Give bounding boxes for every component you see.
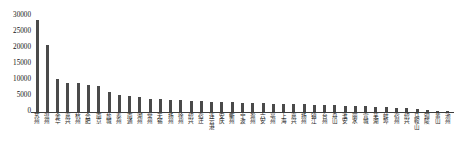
bar-column	[128, 96, 131, 112]
bar-column	[66, 83, 69, 112]
bar	[36, 20, 39, 112]
x-axis-tick-label: 镇江	[310, 114, 318, 125]
bar	[56, 79, 59, 112]
bar-chart: 050001000015000200002500030000 苏州温州金华嘉兴杭…	[0, 0, 457, 156]
x-axis-tick-label: 无锡	[156, 114, 164, 125]
bar-column	[303, 104, 306, 112]
bar-column	[87, 85, 90, 112]
bar-column	[159, 99, 162, 112]
y-axis-tick-label: 5000	[0, 92, 31, 99]
x-axis-tick-label: 扬州	[300, 114, 308, 125]
bar	[282, 104, 285, 112]
bar	[87, 85, 90, 112]
bar	[108, 92, 111, 112]
bar-column	[149, 99, 152, 112]
bar-column	[77, 83, 80, 112]
bar	[149, 99, 152, 112]
bar	[333, 105, 336, 112]
bar	[77, 83, 80, 112]
bar	[292, 104, 295, 112]
bar-column	[210, 102, 213, 112]
x-axis-tick-label: 芜湖	[372, 114, 380, 125]
bar-column	[231, 102, 234, 112]
y-axis-tick-label: 10000	[0, 76, 31, 83]
y-axis-tick-label: 30000	[0, 12, 31, 19]
bar-column	[262, 103, 265, 112]
y-axis-tick-label: 20000	[0, 44, 31, 51]
bar	[313, 105, 316, 112]
bar-column	[241, 103, 244, 112]
bar-column	[108, 92, 111, 112]
bar	[118, 95, 121, 112]
x-axis-tick-label: 苏州	[33, 114, 41, 125]
x-axis-tick-label: 绍兴	[403, 114, 411, 125]
bar-column	[179, 100, 182, 112]
x-axis-tick-label: 铜陵	[423, 114, 431, 125]
y-axis-tick-label: 0	[0, 108, 31, 115]
x-axis-tick-label: 连云港	[208, 114, 216, 130]
bar	[262, 103, 265, 112]
bar	[272, 104, 275, 112]
y-axis: 050001000015000200002500030000	[0, 0, 31, 156]
x-axis-tick-label: 盐城	[105, 114, 113, 125]
bar	[323, 105, 326, 112]
x-axis-tick-label: 泰州	[115, 114, 123, 125]
bar	[303, 104, 306, 112]
y-axis-tick-label: 15000	[0, 60, 31, 67]
bar-column	[333, 105, 336, 112]
bar-column	[323, 105, 326, 112]
x-axis-tick-label: 六安	[259, 114, 267, 125]
x-axis-tick-label: 马鞍山	[413, 114, 421, 130]
bar	[220, 102, 223, 112]
bar-column	[97, 86, 100, 112]
bar	[210, 102, 213, 112]
bar	[200, 101, 203, 112]
x-axis-tick-label: 徐州	[177, 114, 185, 125]
bar-column	[251, 103, 254, 112]
x-axis-tick-label: 亳州	[269, 114, 277, 125]
bar	[159, 99, 162, 112]
bar	[97, 86, 100, 112]
plot-area	[32, 16, 453, 112]
bar	[169, 100, 172, 112]
x-axis-tick-label: 杭州	[74, 114, 82, 125]
bar	[66, 83, 69, 112]
x-axis-tick-label: 舟山	[331, 114, 339, 125]
bar-column	[220, 102, 223, 112]
x-axis-tick-label: 宿迁	[197, 114, 205, 125]
bar-column	[36, 20, 39, 112]
bar-column	[46, 45, 49, 112]
x-axis-tick-label: 丽水	[351, 114, 359, 125]
x-axis: 苏州温州金华嘉兴杭州合肥南京盐城泰州南通湖州常州无锡扬州徐州绍兴宿迁连云港安庆衢…	[32, 114, 453, 156]
bar-column	[118, 95, 121, 112]
bar	[138, 97, 141, 112]
bar	[251, 103, 254, 112]
x-axis-tick-label: 池州	[444, 114, 452, 125]
x-axis-tick-label: 宣城	[362, 114, 370, 125]
bar-column	[282, 104, 285, 112]
y-axis-tick-label: 25000	[0, 28, 31, 35]
bar-column	[272, 104, 275, 112]
x-axis-tick-label: 嘉兴	[64, 114, 72, 125]
bar-column	[56, 79, 59, 112]
bar	[179, 100, 182, 112]
x-axis-tick-label: 合肥	[84, 114, 92, 125]
x-axis-tick-label: 衢州	[228, 114, 236, 125]
x-axis-tick-label: 南京	[95, 114, 103, 125]
bar-column	[313, 105, 316, 112]
bar-column	[190, 101, 193, 112]
bar-column	[138, 97, 141, 112]
x-axis-tick-label: 淮安	[341, 114, 349, 125]
bar-column	[200, 101, 203, 112]
bar	[190, 101, 193, 112]
bar-column	[169, 100, 172, 112]
x-axis-tick-label: 嘉兴	[290, 114, 298, 125]
x-axis-tick-label: 宿州	[393, 114, 401, 125]
x-axis-tick-label: 绍兴	[187, 114, 195, 125]
bar	[241, 103, 244, 112]
x-axis-tick-label: 金华	[54, 114, 62, 125]
x-axis-tick-label: 上海	[280, 114, 288, 125]
bar	[231, 102, 234, 112]
bar-column	[292, 104, 295, 112]
x-axis-tick-label: 安庆	[218, 114, 226, 125]
